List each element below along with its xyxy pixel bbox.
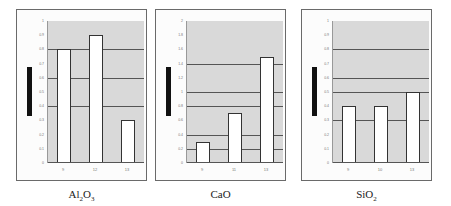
y-tick-label: 0 xyxy=(165,161,183,165)
y-tick-label: 0.5 xyxy=(26,90,44,94)
bar xyxy=(121,120,135,163)
bar xyxy=(89,35,103,163)
y-tick-label: 0.2 xyxy=(311,133,329,137)
y-tick-label: 0.6 xyxy=(311,76,329,80)
y-tick-label: 0 xyxy=(311,161,329,165)
gridline xyxy=(333,49,429,50)
y-tick-label: 0.6 xyxy=(26,76,44,80)
chart-caption: SiO2 xyxy=(301,188,432,203)
y-tick-label: 0 xyxy=(26,161,44,165)
plot-area: 00.10.20.30.40.50.60.70.80.91 xyxy=(332,21,429,163)
bar xyxy=(406,92,420,163)
chart-caption: CaO xyxy=(155,188,286,200)
y-tick-label: 0.3 xyxy=(26,118,44,122)
y-tick-label: 0.5 xyxy=(311,90,329,94)
bar xyxy=(342,106,356,163)
y-tick-label: 1.8 xyxy=(165,33,183,37)
y-tick-label: 0.8 xyxy=(26,47,44,51)
y-tick-label: 0.2 xyxy=(26,133,44,137)
x-tick-label: 10 xyxy=(373,167,387,172)
y-tick-label: 1.4 xyxy=(165,62,183,66)
y-tick-label: 0.3 xyxy=(311,118,329,122)
y-tick-label: 1 xyxy=(165,90,183,94)
plot-area: 00.10.20.30.40.50.60.70.80.91 xyxy=(47,21,144,163)
plot-area: 00.20.40.60.811.21.41.61.82 xyxy=(186,21,283,163)
y-tick-label: 0.7 xyxy=(26,62,44,66)
x-tick-label: 11 xyxy=(227,167,241,172)
y-tick-label: 2 xyxy=(165,19,183,23)
chart-frame-sio2: 00.10.20.30.40.50.60.70.80.9191013 xyxy=(301,9,432,181)
y-tick-label: 0.1 xyxy=(311,147,329,151)
y-tick-label: 0.7 xyxy=(311,62,329,66)
bar xyxy=(57,49,71,163)
y-tick-label: 0.2 xyxy=(165,147,183,151)
bar xyxy=(196,142,210,163)
y-tick-label: 1.6 xyxy=(165,47,183,51)
y-tick-label: 0.8 xyxy=(311,47,329,51)
bar xyxy=(374,106,388,163)
y-tick-label: 0.6 xyxy=(165,118,183,122)
x-tick-label: 13 xyxy=(259,167,273,172)
x-axis-line xyxy=(333,162,429,163)
y-tick-label: 1 xyxy=(311,19,329,23)
x-axis-line xyxy=(48,162,144,163)
x-tick-label: 13 xyxy=(120,167,134,172)
y-tick-label: 0.9 xyxy=(311,33,329,37)
bar xyxy=(228,113,242,163)
y-tick-label: 0.9 xyxy=(26,33,44,37)
y-tick-label: 0.4 xyxy=(311,104,329,108)
y-tick-label: 0.1 xyxy=(26,147,44,151)
y-tick-label: 1 xyxy=(26,19,44,23)
x-axis-line xyxy=(187,162,283,163)
x-tick-label: 9 xyxy=(195,167,209,172)
y-tick-label: 1.2 xyxy=(165,76,183,80)
chart-frame-al2o3: 00.10.20.30.40.50.60.70.80.9191213 xyxy=(16,9,147,181)
chart-frame-cao: 00.20.40.60.811.21.41.61.8291113 xyxy=(155,9,286,181)
x-tick-label: 9 xyxy=(341,167,355,172)
x-tick-label: 9 xyxy=(56,167,70,172)
y-tick-label: 0.4 xyxy=(165,133,183,137)
y-tick-label: 0.8 xyxy=(165,104,183,108)
x-tick-label: 12 xyxy=(88,167,102,172)
chart-caption: Al2O3 xyxy=(16,188,147,203)
x-tick-label: 13 xyxy=(405,167,419,172)
y-tick-label: 0.4 xyxy=(26,104,44,108)
bar xyxy=(260,57,274,164)
gridline xyxy=(333,78,429,79)
